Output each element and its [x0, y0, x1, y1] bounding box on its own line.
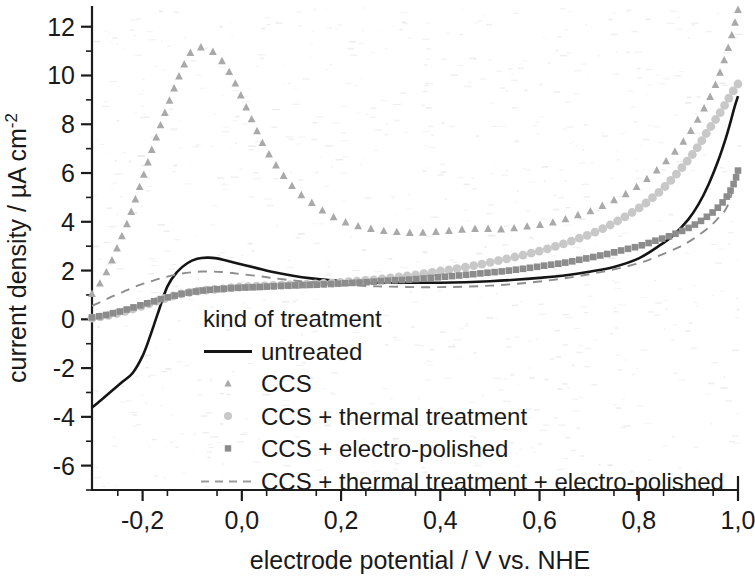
speckle [310, 43, 314, 44]
speckle [350, 54, 357, 56]
marker-circle [567, 237, 576, 246]
marker-triangle [662, 157, 670, 164]
legend-swatch-triangle [224, 380, 231, 387]
marker-triangle [587, 207, 595, 214]
speckle [179, 120, 181, 122]
speckle [735, 317, 740, 318]
speckle [341, 140, 348, 141]
marker-triangle [549, 218, 557, 225]
speckle [223, 188, 229, 190]
speckle [666, 308, 668, 310]
speckle [146, 190, 149, 192]
speckle [515, 453, 518, 454]
marker-square [527, 265, 534, 272]
speckle [221, 125, 223, 127]
speckle [465, 325, 469, 326]
marker-triangle [187, 49, 195, 56]
speckle [544, 180, 545, 182]
y-tick-label: 12 [47, 13, 75, 41]
speckle [567, 387, 570, 389]
speckle [563, 129, 567, 130]
speckle [542, 37, 547, 38]
speckle [540, 430, 548, 432]
speckle [321, 223, 323, 225]
speckle [116, 268, 124, 269]
speckle [401, 12, 409, 14]
speckle [240, 434, 247, 435]
speckle [720, 167, 724, 168]
speckle [353, 332, 359, 333]
speckle [302, 334, 304, 336]
speckle [565, 180, 567, 181]
speckle [292, 88, 298, 89]
marker-square [249, 284, 256, 291]
speckle [613, 404, 617, 405]
marker-triangle [280, 172, 288, 179]
speckle [501, 175, 508, 176]
speckle [137, 351, 143, 352]
speckle [264, 198, 272, 200]
speckle [428, 126, 433, 128]
marker-square [506, 267, 513, 274]
speckle [231, 36, 233, 37]
marker-triangle [225, 68, 233, 75]
speckle [193, 434, 196, 435]
speckle [464, 86, 472, 88]
speckle [538, 314, 546, 315]
marker-square [576, 257, 583, 264]
legend-entry-ccs-thermal-treatment-electro-polished[interactable]: CCS + thermal treatment + electro-polish… [201, 468, 724, 495]
marker-circle [510, 253, 519, 262]
speckle [120, 196, 122, 197]
marker-square [221, 285, 228, 292]
speckle [591, 162, 594, 164]
speckle [441, 171, 447, 173]
speckle [512, 107, 517, 108]
speckle [506, 170, 508, 171]
speckle [454, 339, 462, 340]
speckle [647, 85, 652, 86]
speckle [482, 395, 484, 396]
legend-entry-ccs-thermal-treatment[interactable]: CCS + thermal treatment [224, 403, 527, 430]
x-tick-label: 0,6 [522, 506, 557, 534]
marker-square [158, 296, 165, 303]
speckle [634, 159, 637, 160]
marker-triangle [633, 183, 641, 190]
speckle [215, 113, 217, 115]
speckle [385, 48, 387, 49]
speckle [425, 379, 431, 381]
speckle [529, 341, 532, 343]
speckle [170, 128, 177, 130]
speckle [572, 141, 573, 143]
speckle [697, 96, 701, 98]
legend-entry-ccs[interactable]: CCS [224, 370, 311, 397]
speckle [505, 91, 508, 92]
speckle [274, 178, 278, 180]
speckle [544, 379, 548, 381]
marker-square [555, 260, 562, 267]
legend-entry-ccs-electro-polished[interactable]: CCS + electro-polished [225, 435, 509, 462]
speckle [615, 288, 622, 289]
legend-label: CCS + electro-polished [261, 435, 508, 462]
marker-square [199, 287, 206, 294]
speckle [222, 131, 229, 132]
speckle [596, 210, 600, 212]
speckle [557, 36, 562, 37]
marker-triangle [406, 229, 414, 236]
speckle [491, 173, 494, 174]
speckle [146, 367, 150, 368]
legend-entry-untreated[interactable]: untreated [204, 338, 362, 365]
speckle [513, 13, 519, 14]
speckle [96, 194, 98, 195]
speckle [210, 380, 213, 381]
speckle [230, 257, 233, 258]
speckle [165, 118, 167, 119]
speckle [143, 79, 145, 80]
speckle [241, 124, 248, 125]
marker-square [639, 242, 646, 249]
speckle [327, 27, 333, 29]
speckle [691, 347, 697, 349]
speckle [95, 140, 99, 141]
speckle [731, 221, 733, 222]
speckle [314, 9, 317, 11]
speckle [612, 13, 617, 14]
